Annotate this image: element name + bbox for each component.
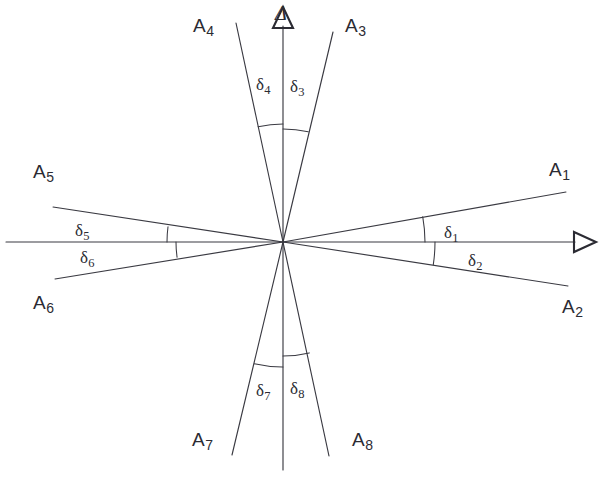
ray-label-A7-subscript: 7: [205, 437, 213, 453]
ray-A3: [283, 32, 333, 242]
diagram-canvas: Δ A1 A2 A3 A4 A5 A6 A7 A8 δ1 δ2 δ3 δ4 δ5…: [0, 0, 612, 504]
angle-arc-d1: [423, 217, 425, 242]
angle-label-d7: δ7: [256, 382, 271, 403]
angle-label-d2-text: δ: [468, 251, 476, 270]
angle-label-d4: δ4: [256, 76, 271, 97]
ray-label-A3: A3: [345, 16, 366, 38]
ray-label-A1-subscript: 1: [562, 167, 570, 183]
ray-label-A5: A5: [33, 162, 54, 184]
ray-label-A7-text: A: [192, 429, 205, 450]
ray-label-A2-subscript: 2: [575, 304, 583, 320]
ray-label-A7: A7: [192, 430, 213, 452]
angle-arcs-group: [167, 124, 435, 367]
ray-label-A2: A2: [562, 297, 583, 319]
angle-arc-d3: [283, 129, 308, 132]
ray-label-A4-text: A: [193, 15, 206, 36]
angle-label-d1-subscript: 1: [452, 231, 459, 245]
angle-label-d7-subscript: 7: [264, 389, 271, 403]
angle-label-d7-text: δ: [256, 381, 264, 400]
ray-A7: [232, 242, 283, 455]
ray-label-A2-text: A: [562, 296, 575, 317]
ray-A2: [283, 242, 568, 286]
ray-label-A1-text: A: [549, 159, 562, 180]
ray-label-A6: A6: [33, 293, 54, 315]
angle-arc-d4: [258, 124, 283, 127]
angle-label-d8: δ8: [290, 380, 305, 401]
angle-label-d8-subscript: 8: [298, 387, 305, 401]
angle-label-d5-text: δ: [75, 221, 83, 240]
horizontal-axis-arrowhead-icon: [574, 232, 596, 252]
ray-label-A5-text: A: [33, 161, 46, 182]
vertical-axis-label: Δ: [275, 3, 287, 23]
ray-label-A5-subscript: 5: [46, 169, 54, 185]
angle-label-d3-subscript: 3: [298, 85, 305, 99]
ray-label-A6-subscript: 6: [46, 300, 54, 316]
angle-label-d6: δ6: [80, 249, 95, 270]
angle-arc-d7: [254, 364, 283, 367]
angle-label-d2-subscript: 2: [476, 259, 483, 273]
rays-group: [53, 23, 568, 456]
angle-label-d5-subscript: 5: [83, 229, 90, 243]
angle-label-d3-text: δ: [290, 77, 298, 96]
angle-label-d4-text: δ: [256, 75, 264, 94]
ray-label-A3-subscript: 3: [358, 23, 366, 39]
ray-label-A8-text: A: [352, 429, 365, 450]
angle-label-d5: δ5: [75, 222, 90, 243]
ray-label-A4-subscript: 4: [206, 23, 214, 39]
angle-arc-d2: [433, 242, 435, 265]
ray-label-A8: A8: [352, 430, 373, 452]
angle-arc-d5: [167, 227, 168, 242]
angle-label-d1-text: δ: [444, 223, 452, 242]
ray-label-A1: A1: [549, 160, 570, 182]
ray-label-A6-text: A: [33, 292, 46, 313]
angle-label-d2: δ2: [468, 252, 483, 273]
ray-label-A4: A4: [193, 16, 214, 38]
angle-arc-d8: [283, 353, 309, 356]
angle-label-d8-text: δ: [290, 379, 298, 398]
angle-arc-d6: [176, 242, 177, 257]
angle-label-d4-subscript: 4: [264, 83, 271, 97]
ray-label-A8-subscript: 8: [365, 437, 373, 453]
angle-label-d6-subscript: 6: [88, 256, 95, 270]
angle-label-d3: δ3: [290, 78, 305, 99]
ray-A4: [236, 23, 283, 242]
angle-label-d6-text: δ: [80, 248, 88, 267]
ray-A8: [283, 242, 329, 456]
ray-label-A3-text: A: [345, 15, 358, 36]
angle-label-d1: δ1: [444, 224, 459, 245]
